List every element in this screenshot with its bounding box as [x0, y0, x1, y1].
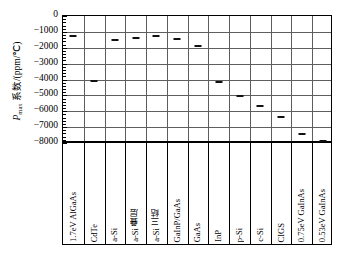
- x-axis-category-label: p-Si: [229, 143, 250, 246]
- y-axis-minor-tick: [63, 102, 66, 103]
- error-bar: [88, 80, 100, 81]
- y-axis-minor-tick: [63, 73, 66, 74]
- y-axis-minor-tick: [63, 130, 66, 131]
- y-axis-minor-tick: [63, 22, 66, 23]
- y-axis-minor-tick: [63, 54, 66, 55]
- x-axis-category-label: CdTe: [84, 143, 105, 246]
- error-bar: [317, 140, 329, 141]
- y-axis-minor-tick: [63, 38, 66, 39]
- y-axis-minor-tick: [63, 137, 66, 138]
- x-axis-category-label-text: a-Si 三结: [152, 208, 161, 242]
- x-axis-category-label: 0.75eV GaInAs: [291, 143, 312, 246]
- error-bar-cap-lower: [195, 46, 202, 47]
- y-axis-minor-tick: [63, 140, 66, 141]
- error-bar-cap-lower: [70, 36, 77, 37]
- error-bar: [296, 133, 308, 134]
- x-axis-category-label: InP: [208, 143, 229, 246]
- y-axis-tick-label: −3000: [24, 58, 58, 68]
- y-axis-minor-tick: [63, 133, 66, 134]
- error-bar: [130, 37, 142, 38]
- x-axis-category-label: a-Si 三结: [146, 143, 167, 246]
- y-axis-major-tick: [63, 48, 67, 49]
- y-axis-title-rest: 系数/(ppm/℃): [12, 42, 22, 104]
- y-axis-minor-tick: [63, 57, 66, 58]
- error-bar-cap-lower: [215, 82, 222, 83]
- error-bar: [213, 81, 225, 82]
- x-gridline: [146, 16, 147, 141]
- y-axis-minor-tick: [63, 92, 66, 93]
- x-axis-category-label-text: InP: [214, 230, 223, 242]
- y-axis-title: Pmax 系数/(ppm/℃): [9, 11, 23, 151]
- y-axis-minor-tick: [63, 108, 66, 109]
- x-gridline: [167, 16, 168, 141]
- y-axis-minor-tick: [63, 51, 66, 52]
- error-bar-cap-lower: [298, 134, 305, 135]
- x-gridline: [291, 16, 292, 141]
- x-axis-category-label-text: p-Si: [235, 228, 244, 242]
- error-bar: [67, 35, 79, 36]
- y-axis-minor-tick: [63, 99, 66, 100]
- x-axis-category-label-text: 0.53eV GaInAs: [318, 189, 327, 242]
- y-axis-tick-label: −2000: [24, 42, 58, 52]
- y-axis-tick-label: −6000: [24, 105, 58, 115]
- y-axis-minor-tick: [63, 121, 66, 122]
- y-axis-minor-tick: [63, 86, 66, 87]
- x-axis-category-label: 1.7eV AlGaAs: [63, 143, 84, 246]
- y-axis-major-tick: [63, 127, 67, 128]
- error-bar-cap-lower: [278, 117, 285, 118]
- x-axis-category-label: CIGS: [271, 143, 292, 246]
- y-axis-tick-label: 0: [24, 10, 58, 20]
- y-axis-major-tick: [63, 95, 67, 96]
- x-axis-category-label-text: a-Si 叠层: [131, 208, 140, 242]
- x-axis-category-label: a-Si 叠层: [125, 143, 146, 246]
- error-bar-cap-lower: [174, 39, 181, 40]
- y-axis-major-tick: [63, 111, 67, 112]
- y-axis-major-tick: [63, 64, 67, 65]
- y-axis-major-tick: [63, 80, 67, 81]
- x-axis-category-label: c-Si: [250, 143, 271, 246]
- y-axis-minor-tick: [63, 105, 66, 106]
- x-axis-category-label: GaAs: [188, 143, 209, 246]
- y-axis-major-tick: [63, 32, 67, 33]
- y-axis-major-tick: [63, 16, 67, 17]
- error-bar: [171, 38, 183, 39]
- chart-figure: Pmax 系数/(ppm/℃) −8000−7000−6000−5000−400…: [0, 0, 342, 263]
- x-gridline: [125, 16, 126, 141]
- x-axis-category-label-text: a-Si: [110, 228, 119, 242]
- y-axis-tick-label: −7000: [24, 121, 58, 131]
- y-axis-minor-tick: [63, 114, 66, 115]
- error-bar: [109, 39, 121, 40]
- x-axis-category-label-text: c-Si: [256, 228, 265, 242]
- error-bar: [234, 95, 246, 96]
- error-bar-cap-lower: [236, 96, 243, 97]
- x-gridline: [312, 16, 313, 141]
- error-bar: [254, 105, 266, 106]
- error-bar-cap-lower: [91, 81, 98, 82]
- x-gridline: [271, 16, 272, 141]
- error-bar-cap-lower: [132, 38, 139, 39]
- x-axis-category-label: a-Si: [105, 143, 126, 246]
- y-axis-minor-tick: [63, 89, 66, 90]
- x-axis-category-label-text: GaInP/GaAs: [173, 199, 182, 242]
- category-label-box: 1.7eV AlGaAsCdTea-Sia-Si 叠层a-Si 三结GaInP/…: [62, 142, 332, 245]
- x-gridline: [208, 16, 209, 141]
- y-axis-minor-tick: [63, 45, 66, 46]
- error-bar: [150, 35, 162, 36]
- error-bar: [275, 116, 287, 117]
- y-axis-tick-label: −8000: [24, 137, 58, 147]
- y-axis-minor-tick: [63, 118, 66, 119]
- plot-area: [62, 15, 332, 142]
- y-axis-tick-labels: −8000−7000−6000−5000−4000−3000−2000−1000…: [22, 0, 58, 263]
- y-axis-minor-tick: [63, 67, 66, 68]
- y-axis-minor-tick: [63, 29, 66, 30]
- y-axis-minor-tick: [63, 35, 66, 36]
- y-axis-minor-tick: [63, 41, 66, 42]
- x-axis-category-label: 0.53eV GaInAs: [312, 143, 333, 246]
- y-axis-minor-tick: [63, 19, 66, 20]
- x-axis-category-label-text: CIGS: [277, 223, 286, 242]
- error-bar-cap-lower: [257, 106, 264, 107]
- x-gridline: [84, 16, 85, 141]
- error-bar-cap-lower: [111, 40, 118, 41]
- error-bar-cap-lower: [153, 36, 160, 37]
- y-axis-tick-label: −4000: [24, 74, 58, 84]
